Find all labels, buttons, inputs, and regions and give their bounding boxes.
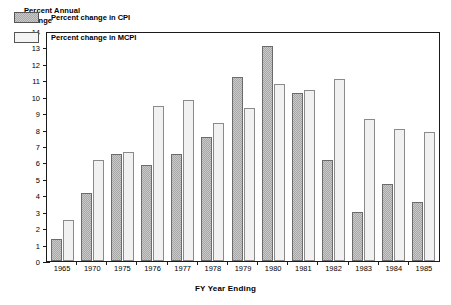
bar-group <box>288 33 318 261</box>
bar-group <box>168 33 198 261</box>
bar-cpi <box>81 193 92 261</box>
y-tick-label: 9 <box>36 110 40 119</box>
y-tick-label: 12 <box>32 60 40 69</box>
bar-cpi <box>382 184 393 261</box>
bar-cpi <box>322 160 333 261</box>
y-tick-label: 8 <box>36 126 40 135</box>
bar-mcpi <box>394 129 405 261</box>
x-tick-label: 1985 <box>409 264 439 276</box>
x-tick-label: 1965 <box>47 264 77 276</box>
bar-cpi <box>51 239 62 261</box>
bar-cpi <box>352 212 363 261</box>
bar-cpi <box>292 93 303 261</box>
bar-group <box>318 33 348 261</box>
y-tick-label: 2 <box>36 225 40 234</box>
x-tick-label: 1978 <box>198 264 228 276</box>
bar-group <box>198 33 228 261</box>
bar-mcpi <box>123 152 134 261</box>
bar-cpi <box>262 46 273 261</box>
x-tick-label: 1981 <box>288 264 318 276</box>
chart-root: Percent Annual Change 012345678910111213… <box>0 0 451 305</box>
y-tick-label: 5 <box>36 175 40 184</box>
bar-group <box>258 33 288 261</box>
bar-mcpi <box>213 123 224 261</box>
bar-group <box>379 33 409 261</box>
bar-mcpi <box>183 100 194 261</box>
y-tick-label: 11 <box>32 77 40 86</box>
bar-mcpi <box>93 160 104 261</box>
y-tick-label: 0 <box>36 258 40 267</box>
y-tick-label: 1 <box>36 241 40 250</box>
bar-mcpi <box>424 132 435 261</box>
x-tick-label: 1977 <box>168 264 198 276</box>
bar-group <box>228 33 258 261</box>
bar-mcpi <box>304 90 315 261</box>
x-tick-label: 1983 <box>349 264 379 276</box>
bar-mcpi <box>244 108 255 261</box>
y-axis-labels: 01234567891011121314 <box>0 32 44 262</box>
bar-group <box>349 33 379 261</box>
y-tick-mark <box>43 262 50 263</box>
bar-mcpi <box>334 79 345 261</box>
x-tick-label: 1984 <box>379 264 409 276</box>
x-tick-label: 1979 <box>228 264 258 276</box>
x-tick-label: 1976 <box>137 264 167 276</box>
x-axis-title: FY Year Ending <box>0 284 451 293</box>
bar-group <box>77 33 107 261</box>
x-tick-label: 1980 <box>258 264 288 276</box>
x-tick-label: 1975 <box>107 264 137 276</box>
y-tick-label: 4 <box>36 192 40 201</box>
bar-group <box>137 33 167 261</box>
chart-legend: Percent change in CPIPercent change in M… <box>14 12 136 52</box>
bar-cpi <box>171 154 182 261</box>
x-axis-labels: 1965197019751976197719781979198019811982… <box>47 264 439 276</box>
x-tick-label: 1982 <box>318 264 348 276</box>
bar-mcpi <box>274 84 285 262</box>
y-tick-label: 3 <box>36 208 40 217</box>
y-tick-label: 6 <box>36 159 40 168</box>
bar-cpi <box>201 137 212 261</box>
bar-cpi <box>141 165 152 261</box>
legend-label: Percent change in MCPI <box>51 33 136 42</box>
bar-group <box>409 33 439 261</box>
legend-label: Percent change in CPI <box>51 13 130 22</box>
bar-cpi <box>412 202 423 261</box>
legend-item: Percent change in CPI <box>14 12 136 23</box>
bar-mcpi <box>63 220 74 261</box>
x-tick-label: 1970 <box>77 264 107 276</box>
bar-group <box>47 33 77 261</box>
mcpi-swatch <box>14 32 39 43</box>
bar-mcpi <box>153 106 164 261</box>
bar-cpi <box>232 77 243 261</box>
bar-mcpi <box>364 119 375 261</box>
legend-item: Percent change in MCPI <box>14 32 136 43</box>
bar-cpi <box>111 154 122 261</box>
y-tick-label: 7 <box>36 143 40 152</box>
bar-groups <box>47 33 439 261</box>
bar-group <box>107 33 137 261</box>
y-tick-label: 10 <box>32 93 40 102</box>
cpi-swatch <box>14 12 39 23</box>
